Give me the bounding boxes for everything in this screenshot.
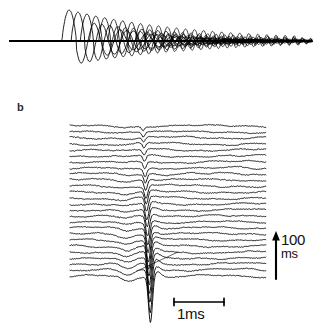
figure-root: b 100ms 1ms [0, 0, 317, 335]
panel-b-waterfall-traces [0, 95, 317, 335]
vertical-scale-unit: ms [281, 247, 305, 260]
panel-a-plot [0, 0, 317, 95]
horizontal-scale-label: 1ms [177, 306, 204, 321]
vertical-scale-label: 100ms [281, 232, 305, 261]
pointer-line [137, 252, 178, 271]
panel-a-superimposed-traces [0, 0, 317, 95]
panel-b-plot [0, 95, 317, 335]
